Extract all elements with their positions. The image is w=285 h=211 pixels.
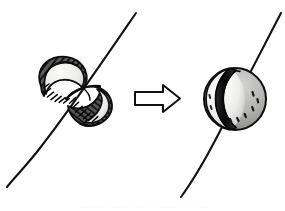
caption-remnant: ........ .... ...... .. ...... ..... ...… <box>0 201 285 211</box>
figure-root: ........ .... ...... .. ...... ..... ...… <box>0 0 285 211</box>
figure-illustration <box>0 0 285 211</box>
whole-sphere <box>204 68 266 130</box>
